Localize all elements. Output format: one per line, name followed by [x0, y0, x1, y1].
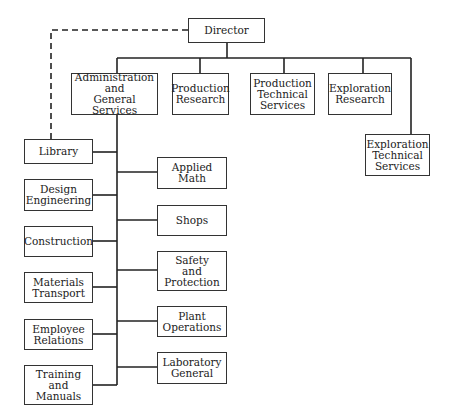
exploration-technical-services-box: Exploration Technical Services [365, 134, 430, 176]
construction-box: Construction [24, 226, 93, 257]
laboratory-general-box: Laboratory General [157, 352, 227, 384]
materials-transport-box: Materials Transport [24, 272, 93, 303]
production-technical-services-box: Production Technical Services [250, 73, 315, 115]
design-engineering-box: Design Engineering [24, 179, 93, 211]
director-box: Director [188, 18, 265, 43]
employee-relations-box: Employee Relations [24, 319, 93, 350]
applied-math-box: Applied Math [157, 157, 227, 189]
production-research-box: Production Research [172, 73, 229, 115]
training-manuals-box: Training and Manuals [24, 365, 93, 405]
exploration-research-box: Exploration Research [328, 73, 392, 115]
org-chart: Director Administration and General Serv… [0, 0, 455, 417]
admin-general-services-box: Administration and General Services [71, 73, 158, 115]
shops-box: Shops [157, 205, 227, 236]
library-box: Library [24, 139, 93, 164]
safety-protection-box: Safety and Protection [157, 251, 227, 291]
plant-operations-box: Plant Operations [157, 306, 227, 337]
